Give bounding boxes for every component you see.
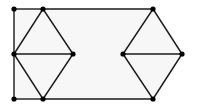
node-J — [150, 96, 155, 101]
node-F — [40, 96, 45, 101]
node-A — [11, 6, 16, 11]
node-H — [120, 51, 125, 56]
node-D — [70, 51, 75, 56]
node-C — [11, 51, 16, 56]
graph-diagram — [0, 0, 201, 108]
node-B — [40, 6, 45, 11]
node-G — [150, 6, 155, 11]
node-I — [179, 51, 184, 56]
node-E — [11, 96, 16, 101]
